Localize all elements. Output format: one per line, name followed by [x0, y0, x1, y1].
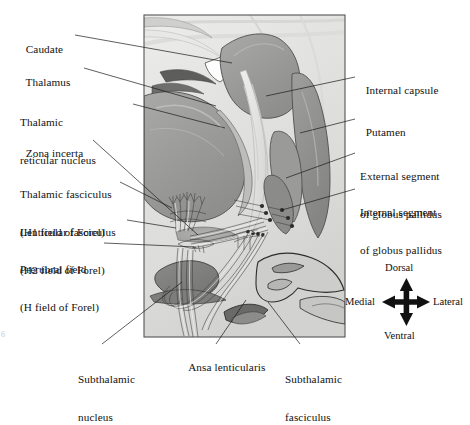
compass-label-lateral: Lateral	[433, 296, 463, 307]
label-gpi-line1: Internal segment	[360, 206, 442, 219]
label-internal-capsule: Internal capsule	[360, 71, 439, 96]
label-stn-line2: nucleus	[78, 411, 135, 424]
label-caudate-line1: Caudate	[26, 43, 63, 55]
label-trn-line1: Thalamic	[20, 116, 96, 129]
label-h1-line1: Thalamic fasciculus	[20, 188, 112, 201]
label-ansa-lenticularis: Ansa lenticularis	[183, 348, 265, 373]
label-internal-capsule-line1: Internal capsule	[366, 84, 439, 96]
label-zona-incerta-line1: Zona incerta	[26, 147, 83, 159]
label-h-line1: Prerubral field	[20, 263, 99, 276]
compass-arrows	[382, 278, 430, 326]
label-putamen: Putamen	[360, 113, 406, 138]
label-caudate: Caudate	[20, 30, 63, 55]
label-thalamus: Thalamus	[20, 63, 71, 88]
label-stf-line2: fasciculus	[285, 411, 342, 424]
label-stf-line1: Subthalamic	[285, 373, 342, 386]
brain-section-panel	[144, 15, 345, 337]
label-subthalamic-fasciculus: Subthalamic fasciculus	[285, 348, 342, 425]
label-ansa-line1: Ansa lenticularis	[188, 361, 265, 373]
label-subthalamic-nucleus: Subthalamic nucleus	[78, 348, 135, 425]
compass-label-medial: Medial	[345, 296, 375, 307]
label-putamen-line1: Putamen	[366, 126, 406, 138]
label-internal-globus-pallidus: Internal segment of globus pallidus	[360, 181, 442, 269]
page-number: 6	[1, 330, 5, 339]
label-h-line2: (H field of Forel)	[20, 301, 99, 314]
label-gpi-line2: of globus pallidus	[360, 244, 442, 257]
label-thalamus-line1: Thalamus	[26, 76, 71, 88]
label-stn-line1: Subthalamic	[78, 373, 135, 386]
compass-label-ventral: Ventral	[384, 330, 415, 341]
compass-label-dorsal: Dorsal	[385, 262, 413, 273]
label-zona-incerta: Zona incerta	[20, 134, 83, 159]
label-h2-line1: Lenticular fasciculus	[20, 226, 116, 239]
label-prerubral-field: Prerubral field (H field of Forel)	[20, 238, 99, 326]
